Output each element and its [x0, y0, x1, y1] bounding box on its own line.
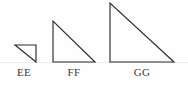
triangle-gg: [110, 3, 174, 62]
geometry-figure: EE FF GG: [0, 0, 188, 95]
label-triangle-ff: FF: [67, 67, 80, 78]
triangle-ff: [53, 21, 95, 62]
label-triangle-ee: EE: [17, 67, 31, 78]
triangles-canvas: [0, 0, 188, 95]
label-triangle-gg: GG: [134, 67, 151, 78]
triangle-ee: [15, 45, 36, 62]
